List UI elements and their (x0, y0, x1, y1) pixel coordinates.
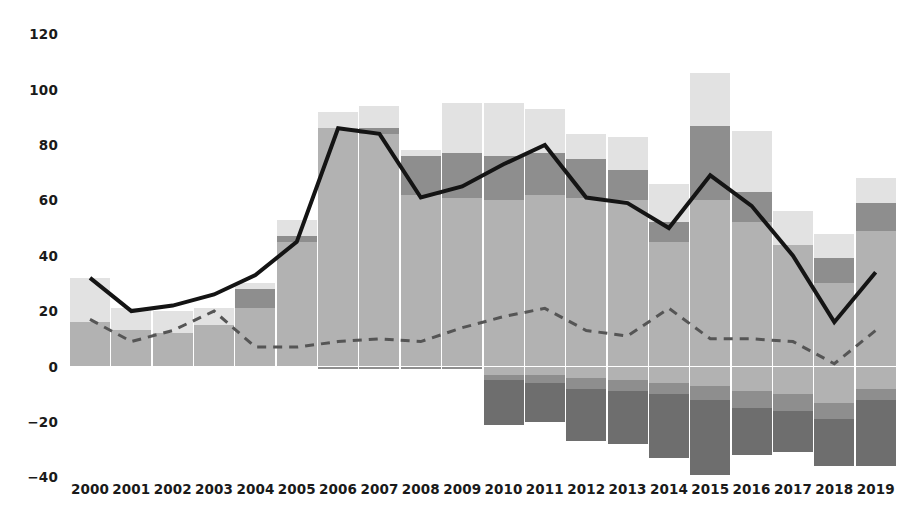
bar-segment (318, 367, 358, 370)
bar-segment (442, 198, 482, 367)
bar-segment (773, 211, 813, 244)
bar-segment (856, 389, 896, 400)
bar-segment (111, 330, 151, 366)
bar-segment (566, 378, 606, 389)
bar-segment (194, 308, 234, 325)
bar-segment (608, 170, 648, 200)
x-axis-tick-label: 2019 (857, 481, 895, 497)
bar-group[interactable] (814, 0, 854, 508)
x-axis-tick-label: 2017 (774, 481, 812, 497)
bar-group[interactable] (111, 0, 151, 508)
bar-group[interactable] (608, 0, 648, 508)
bar-segment (111, 308, 151, 330)
bar-segment (814, 403, 854, 420)
bar-segment (608, 200, 648, 366)
bar-segment (608, 391, 648, 444)
x-axis-tick-label: 2014 (650, 481, 688, 497)
bar-segment (608, 367, 648, 381)
x-axis-tick-label: 2015 (691, 481, 729, 497)
bar-group[interactable] (235, 0, 275, 508)
x-axis-tick-label: 2008 (402, 481, 440, 497)
bar-group[interactable] (732, 0, 772, 508)
bar-segment (608, 137, 648, 170)
bar-segment (732, 408, 772, 455)
bar-segment (277, 220, 317, 237)
bar-segment (442, 153, 482, 197)
bar-group[interactable] (773, 0, 813, 508)
bar-segment (194, 325, 234, 367)
bar-segment (773, 394, 813, 411)
bar-group[interactable] (690, 0, 730, 508)
bar-group[interactable] (70, 0, 110, 508)
bar-group[interactable] (649, 0, 689, 508)
x-axis-tick-label: 2011 (526, 481, 564, 497)
bar-segment (690, 400, 730, 475)
bar-segment (732, 367, 772, 392)
x-axis-tick-label: 2007 (360, 481, 398, 497)
bar-segment (525, 383, 565, 422)
bar-segment (318, 128, 358, 366)
bar-segment (401, 367, 441, 370)
bar-segment (732, 222, 772, 366)
bar-segment (442, 367, 482, 370)
bar-group[interactable] (277, 0, 317, 508)
bar-segment (484, 156, 524, 200)
bar-segment (525, 195, 565, 367)
x-axis-tick-label: 2006 (319, 481, 357, 497)
bar-segment (359, 367, 399, 370)
x-axis-tick-label: 2004 (236, 481, 274, 497)
bar-segment (401, 150, 441, 156)
bar-group[interactable] (856, 0, 896, 508)
bar-segment (235, 289, 275, 308)
bar-segment (566, 159, 606, 198)
bar-group[interactable] (525, 0, 565, 508)
bar-segment (566, 198, 606, 367)
bar-segment (401, 195, 441, 367)
bar-segment (235, 283, 275, 289)
bar-segment (649, 184, 689, 223)
bar-segment (277, 236, 317, 242)
x-axis-tick-label: 2018 (815, 481, 853, 497)
bar-segment (525, 109, 565, 153)
bar-segment (525, 153, 565, 195)
bar-segment (814, 419, 854, 466)
bar-segment (359, 106, 399, 128)
chart-container: 120100806040200−20−40 200020012002200320… (0, 0, 921, 508)
bar-group[interactable] (442, 0, 482, 508)
bar-group[interactable] (566, 0, 606, 508)
x-axis-tick-label: 2003 (195, 481, 233, 497)
bar-segment (814, 283, 854, 366)
bar-group[interactable] (401, 0, 441, 508)
x-axis-tick-label: 2012 (567, 481, 605, 497)
x-axis-tick-label: 2009 (443, 481, 481, 497)
bar-segment (649, 242, 689, 367)
bar-group[interactable] (194, 0, 234, 508)
bar-segment (732, 192, 772, 222)
x-axis-tick-label: 2002 (154, 481, 192, 497)
bar-segment (690, 367, 730, 386)
bar-segment (566, 134, 606, 159)
bar-segment (649, 383, 689, 394)
bar-segment (649, 367, 689, 384)
bar-group[interactable] (359, 0, 399, 508)
bar-segment (153, 333, 193, 366)
bar-segment (525, 367, 565, 375)
bar-segment (856, 367, 896, 389)
bar-group[interactable] (484, 0, 524, 508)
bar-segment (566, 389, 606, 442)
bar-segment (566, 367, 606, 378)
x-axis-tick-label: 2001 (112, 481, 150, 497)
bar-segment (608, 380, 648, 391)
bar-segment (814, 367, 854, 403)
bar-segment (484, 367, 524, 375)
bar-segment (814, 258, 854, 283)
bar-segment (690, 126, 730, 201)
bar-segment (484, 103, 524, 156)
bar-group[interactable] (153, 0, 193, 508)
bar-segment (525, 375, 565, 383)
bar-segment (690, 200, 730, 366)
bar-segment (649, 222, 689, 241)
bar-segment (773, 411, 813, 453)
bar-segment (359, 128, 399, 134)
bar-group[interactable] (318, 0, 358, 508)
